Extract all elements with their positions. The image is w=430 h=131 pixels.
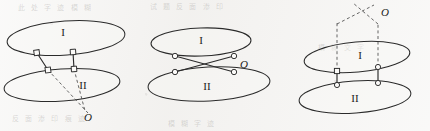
- joint-top-left: [34, 50, 40, 56]
- instant-centre-label: O: [240, 58, 248, 70]
- joint-bottom-right: [231, 69, 236, 74]
- figure-page: 此 处 字 迹 模 糊 试 题 反 面 渗 印 模 糊 文 字 反 面 渗 印 …: [0, 0, 430, 131]
- subfigure-b: I II O: [147, 26, 271, 104]
- instant-centre-label: O: [381, 6, 389, 18]
- subfigure-c: I II O: [298, 3, 412, 117]
- plate-i-label: I: [358, 49, 362, 61]
- joint-bottom-right: [71, 66, 77, 72]
- plate-i-outline: [303, 37, 411, 76]
- joint-top-right: [70, 49, 76, 55]
- joint-bottom-right: [375, 80, 380, 85]
- plate-ii-label: II: [351, 92, 359, 104]
- joint-bottom-left: [172, 69, 177, 74]
- plate-i-label: I: [199, 34, 203, 46]
- plate-i-label: I: [61, 26, 65, 38]
- subfigure-a: I II O: [3, 17, 126, 123]
- joint-top-left: [334, 68, 339, 73]
- construction-line-cross-right: [337, 5, 374, 24]
- plate-i-outline: [6, 17, 126, 59]
- joint-top-left: [172, 53, 177, 58]
- joint-bottom-left: [334, 82, 339, 87]
- plate-ii-label: II: [79, 79, 87, 91]
- joint-top-right: [231, 53, 236, 58]
- plate-ii-outline: [3, 65, 121, 105]
- construction-line-cross-left: [353, 3, 378, 24]
- joint-bottom-left: [45, 67, 51, 73]
- plate-ii-label: II: [203, 80, 211, 92]
- joint-top-right: [375, 64, 380, 69]
- instant-centre-label: O: [84, 111, 92, 123]
- mechanism-diagram: I II O I II O: [0, 0, 430, 131]
